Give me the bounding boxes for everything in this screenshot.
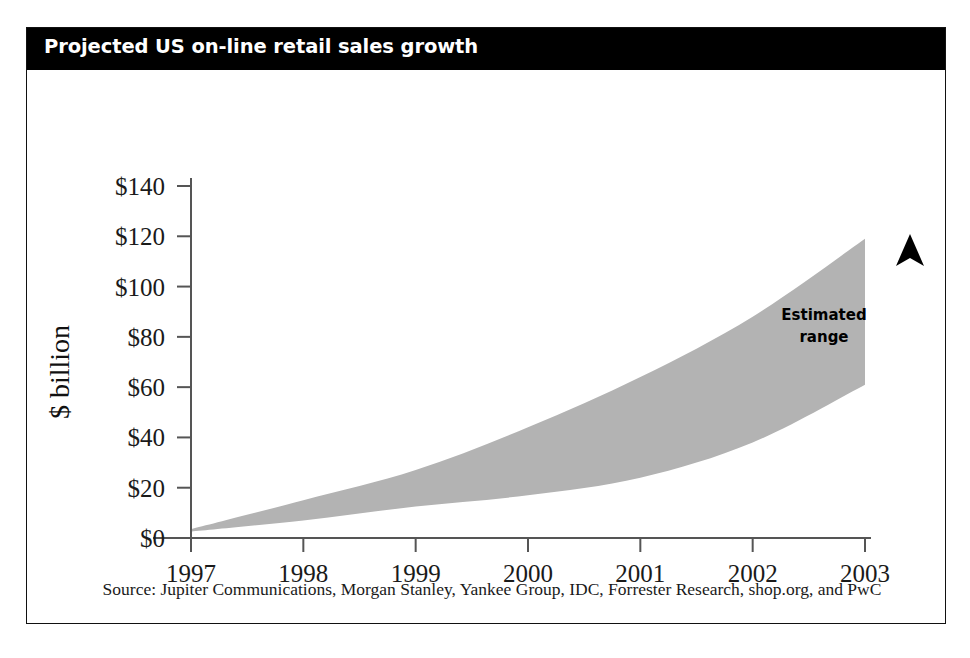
- y-tick-label: $60: [128, 374, 166, 401]
- band-annotation-line2: range: [799, 328, 848, 346]
- x-axis-ticks: [191, 538, 865, 552]
- y-tick-label: $100: [115, 274, 165, 301]
- y-tick-label: $140: [115, 173, 165, 200]
- up-arrowhead-icon: [896, 234, 924, 266]
- plot-area: $0$20$40$60$80$100$120$140 1997199819992…: [27, 70, 945, 623]
- source-note: Source: Jupiter Communications, Morgan S…: [47, 579, 937, 600]
- y-axis-title: $ billion: [44, 325, 75, 419]
- title-banner: Projected US on-line retail sales growth: [27, 28, 945, 70]
- y-tick-label: $40: [128, 424, 166, 451]
- y-tick-label: $20: [128, 475, 166, 502]
- y-tick-label: $80: [128, 324, 166, 351]
- chart-page: Projected US on-line retail sales growth…: [0, 0, 970, 658]
- estimated-range-band: [191, 239, 865, 532]
- y-axis-tick-labels: $0$20$40$60$80$100$120$140: [115, 173, 165, 552]
- page-title: Projected US on-line retail sales growth: [44, 35, 478, 58]
- chart-card: Projected US on-line retail sales growth…: [26, 27, 946, 624]
- y-axis-ticks: [177, 186, 191, 538]
- area-chart: $0$20$40$60$80$100$120$140 1997199819992…: [27, 70, 945, 623]
- y-tick-label: $120: [115, 223, 165, 250]
- band-annotation-line1: Estimated: [781, 306, 866, 324]
- y-tick-label: $0: [140, 525, 165, 552]
